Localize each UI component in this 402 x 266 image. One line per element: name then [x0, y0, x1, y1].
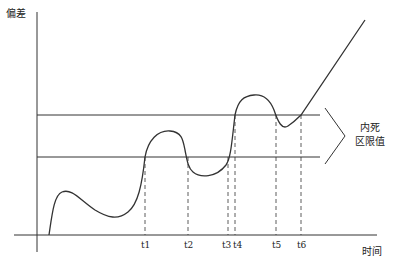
- tick-label-t6: t6: [297, 240, 307, 250]
- x-axis-label: 时间: [362, 245, 382, 257]
- deviation-curve: [49, 20, 365, 235]
- tick-label-t2: t2: [184, 240, 193, 250]
- tick-label-t5: t5: [272, 240, 282, 250]
- time-marker-dashes: [145, 115, 301, 235]
- tick-label-t3: t3: [222, 240, 232, 250]
- deviation-time-diagram: 偏差 时间 内死 区限值 t1 t2 t3 t4 t5 t6: [0, 0, 402, 266]
- threshold-bracket: [325, 108, 345, 164]
- threshold-label-line1: 内死: [360, 121, 380, 133]
- threshold-label-line2: 区限值: [355, 135, 385, 147]
- y-axis-label: 偏差: [6, 7, 26, 19]
- tick-label-t1: t1: [141, 240, 150, 250]
- tick-label-t4: t4: [233, 240, 243, 250]
